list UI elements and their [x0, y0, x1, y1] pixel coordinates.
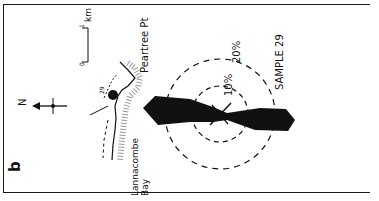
rotated-figure: b N 0 1 km 29 Peartree Pt Lannacombe Bay…	[0, 0, 379, 201]
coastline-map: 29 Peartree Pt Lannacombe Bay	[90, 18, 150, 196]
place-label-peartree: Peartree Pt	[139, 18, 150, 73]
rose-title: SAMPLE 29	[274, 34, 285, 90]
svg-text:29: 29	[98, 86, 105, 94]
svg-text:km: km	[83, 8, 93, 22]
ring-label-10: 10%	[223, 74, 234, 96]
rose-diagram: 10% 20% SAMPLE 29	[143, 34, 295, 169]
sample-site-marker	[108, 90, 118, 100]
svg-text:1: 1	[78, 24, 85, 28]
svg-text:0: 0	[78, 62, 85, 66]
ring-label-20: 20%	[231, 41, 242, 63]
place-label-bay: Bay	[140, 178, 150, 196]
place-label-lannacombe: Lannacombe	[130, 138, 140, 196]
north-arrow-icon: N	[17, 98, 67, 114]
svg-text:N: N	[17, 99, 28, 106]
scale-bar: 0 1 km	[78, 8, 93, 66]
panel-label: b	[6, 161, 24, 172]
